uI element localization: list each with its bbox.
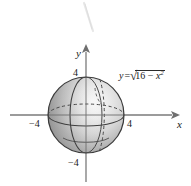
y-tick-label-4: 4: [73, 68, 78, 78]
x-tick-label-4: 4: [127, 119, 132, 129]
y-tick-label-neg4: −4: [68, 158, 79, 168]
figure-container: y x 4 −4 −4 4 y=√16 − x2: [0, 0, 191, 186]
equation-annotation: y=√16 − x2: [119, 69, 165, 82]
scan-streak-artifact: [84, 3, 93, 31]
sphere: [48, 70, 124, 153]
figure-graphic: [0, 0, 191, 186]
x-tick-label-neg4: −4: [29, 119, 40, 129]
equation-lhs: y: [119, 70, 123, 81]
y-axis-label: y: [76, 48, 81, 59]
radicand-exponent: 2: [160, 69, 164, 77]
x-axis-label: x: [177, 119, 182, 130]
radicand: 16 − x2: [135, 70, 165, 82]
radicand-head: 16 −: [135, 70, 156, 81]
